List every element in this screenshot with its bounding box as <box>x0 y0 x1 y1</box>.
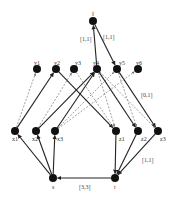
node-label-z1: z1 <box>119 136 125 142</box>
node-label-z3: z3 <box>160 136 166 142</box>
edge-z1-t <box>115 135 116 174</box>
node-label-y4: y4 <box>93 60 99 66</box>
edge-y5-z3 <box>119 72 155 127</box>
edge-label-f-y5: [1,1] <box>103 34 115 40</box>
node-label-x3: x3 <box>57 136 63 142</box>
edge-label-y4-f: [1,1] <box>80 36 92 42</box>
edges-layer <box>16 25 155 178</box>
node-z3 <box>154 127 162 135</box>
edge-x1-y1 <box>16 73 35 127</box>
edge-y4-z1 <box>98 73 115 127</box>
node-y2 <box>52 65 60 73</box>
node-label-s: s <box>52 184 54 190</box>
node-y5 <box>113 65 121 73</box>
edge-label-t-s: [3,3] <box>79 184 91 190</box>
node-label-y2: y2 <box>54 60 60 66</box>
node-x2 <box>32 127 40 135</box>
node-y6 <box>134 65 142 73</box>
node-x3 <box>51 127 59 135</box>
edge-y5-z2 <box>118 73 136 127</box>
edge-f-y5 <box>95 25 115 65</box>
node-label-y6: y6 <box>136 60 142 66</box>
edge-label-y5-z3: [0,1] <box>141 92 153 98</box>
node-label-z2: z2 <box>141 136 147 142</box>
edge-x3-y4 <box>57 73 94 128</box>
node-label-f: f <box>92 11 94 17</box>
node-s <box>49 174 57 182</box>
node-y4 <box>93 65 101 73</box>
node-z2 <box>134 127 142 135</box>
node-t <box>111 174 119 182</box>
node-label-t: t <box>114 184 116 190</box>
node-label-y3: y3 <box>75 60 81 66</box>
node-label-y1: y1 <box>34 60 40 66</box>
edge-s-x3 <box>53 135 55 174</box>
node-y3 <box>70 65 78 73</box>
node-y1 <box>33 65 41 73</box>
node-f <box>89 17 97 25</box>
node-x1 <box>11 127 19 135</box>
edge-label-z3-t: [1,1] <box>142 157 154 163</box>
edge-x3-y6 <box>58 72 134 129</box>
node-label-x2: x2 <box>32 136 38 142</box>
node-z1 <box>112 127 120 135</box>
node-label-x1: x1 <box>12 136 18 142</box>
node-label-y5: y5 <box>119 60 125 66</box>
graph-diagram <box>0 0 171 198</box>
